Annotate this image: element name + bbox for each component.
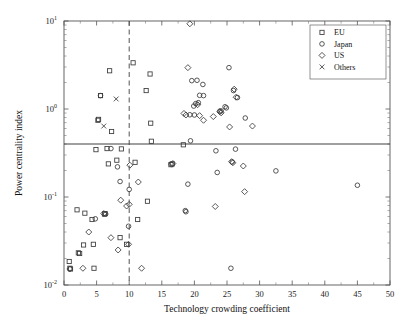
data-point-circle bbox=[229, 266, 234, 271]
data-point-square bbox=[149, 139, 153, 143]
x-tick-label: 15 bbox=[158, 289, 167, 299]
data-point-diamond bbox=[108, 235, 114, 241]
data-point-square bbox=[108, 69, 112, 73]
data-point-square bbox=[92, 266, 96, 270]
data-point-diamond bbox=[115, 247, 121, 253]
data-point-circle bbox=[195, 78, 200, 83]
data-point-circle bbox=[118, 179, 123, 184]
data-point-diamond bbox=[240, 163, 246, 169]
data-point-circle bbox=[274, 169, 279, 174]
data-point-square bbox=[131, 61, 135, 65]
data-point-circle bbox=[192, 113, 197, 118]
x-tick-label: 0 bbox=[62, 289, 66, 299]
series-us bbox=[67, 21, 256, 272]
series-others bbox=[101, 97, 118, 129]
data-point-square bbox=[119, 147, 123, 151]
y-tick-label: 100 bbox=[46, 103, 58, 114]
data-point-diamond bbox=[135, 179, 141, 185]
series-japan bbox=[93, 65, 360, 270]
y-tick-label: 10-2 bbox=[44, 279, 58, 290]
data-point-diamond bbox=[80, 265, 86, 271]
data-point-square bbox=[109, 129, 113, 133]
data-point-circle bbox=[227, 65, 232, 70]
y-tick-label: 101 bbox=[46, 15, 58, 26]
data-point-circle bbox=[126, 224, 131, 229]
data-point-circle bbox=[214, 148, 219, 153]
data-point-diamond bbox=[86, 229, 92, 235]
data-point-circle bbox=[98, 93, 103, 98]
data-point-diamond bbox=[185, 65, 191, 71]
data-point-square bbox=[81, 243, 85, 247]
plot-canvas: 0510152025303540455010-210-1100101 Techn… bbox=[0, 0, 414, 329]
data-point-circle bbox=[93, 217, 98, 222]
x-tick-label: 45 bbox=[353, 289, 362, 299]
y-tick-label: 10-1 bbox=[44, 191, 58, 202]
data-point-square bbox=[136, 217, 140, 221]
data-point-diamond bbox=[118, 197, 124, 203]
x-axis-label: Technology crowding coefficient bbox=[164, 304, 290, 314]
data-point-square bbox=[75, 208, 79, 212]
data-point-square bbox=[145, 199, 149, 203]
x-tick-label: 30 bbox=[255, 289, 264, 299]
data-point-circle bbox=[188, 139, 193, 144]
x-tick-label: 10 bbox=[125, 289, 134, 299]
y-axis-label: Power centrality index bbox=[14, 110, 24, 196]
data-point-diamond bbox=[197, 113, 203, 119]
data-point-square bbox=[67, 259, 71, 263]
x-tick-label: 50 bbox=[386, 289, 395, 299]
legend-label: Others bbox=[334, 63, 355, 72]
data-point-diamond bbox=[139, 265, 145, 271]
x-tick-label: 40 bbox=[321, 289, 330, 299]
x-tick-label: 35 bbox=[288, 289, 297, 299]
data-point-square bbox=[115, 158, 119, 162]
data-point-diamond bbox=[242, 189, 248, 195]
data-point-diamond bbox=[127, 162, 133, 168]
data-point-diamond bbox=[249, 123, 255, 129]
data-point-diamond bbox=[212, 203, 218, 209]
data-point-square bbox=[149, 121, 153, 125]
data-point-circle bbox=[224, 106, 229, 111]
data-point-square bbox=[83, 211, 87, 215]
data-point-circle bbox=[233, 147, 238, 152]
data-point-square bbox=[106, 162, 110, 166]
data-point-square bbox=[144, 88, 148, 92]
legend-label: US bbox=[334, 51, 344, 60]
data-point-square bbox=[94, 148, 98, 152]
data-point-diamond bbox=[210, 114, 216, 120]
data-point-circle bbox=[186, 182, 191, 187]
legend[interactable]: EUJapanUSOthers bbox=[310, 25, 386, 79]
scatter-plot-figure: 0510152025303540455010-210-1100101 Techn… bbox=[0, 0, 414, 329]
legend-label: Japan bbox=[334, 40, 352, 49]
data-point-diamond bbox=[187, 21, 193, 27]
data-point-diamond bbox=[201, 117, 207, 123]
data-point-circle bbox=[115, 165, 120, 170]
x-tick-label: 25 bbox=[223, 289, 232, 299]
data-point-circle bbox=[215, 170, 220, 175]
x-tick-label: 20 bbox=[190, 289, 199, 299]
data-point-square bbox=[133, 160, 137, 164]
series-eu bbox=[67, 61, 185, 271]
data-point-square bbox=[148, 72, 152, 76]
data-point-square bbox=[181, 143, 185, 147]
data-point-circle bbox=[201, 82, 206, 87]
data-point-square bbox=[91, 242, 95, 246]
data-point-diamond bbox=[227, 124, 233, 130]
data-point-circle bbox=[189, 78, 194, 83]
data-point-square bbox=[118, 236, 122, 240]
data-point-circle bbox=[355, 183, 360, 188]
x-tick-label: 5 bbox=[94, 289, 98, 299]
legend-label: EU bbox=[334, 28, 345, 37]
data-point-circle bbox=[243, 116, 248, 121]
